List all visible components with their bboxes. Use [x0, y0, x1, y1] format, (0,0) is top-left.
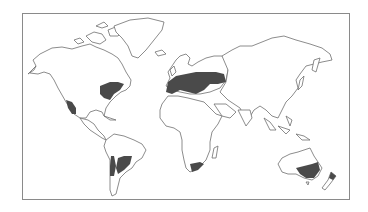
tasmania: [306, 182, 309, 185]
madagascar: [212, 146, 218, 158]
iceland: [155, 50, 166, 56]
india: [238, 110, 252, 126]
southeast-asia-islands: [264, 116, 310, 140]
north-america: [30, 44, 131, 118]
world-map: [0, 0, 368, 212]
africa: [160, 96, 222, 172]
caribbean: [104, 116, 116, 120]
asia: [220, 36, 332, 120]
central-america: [80, 118, 106, 140]
